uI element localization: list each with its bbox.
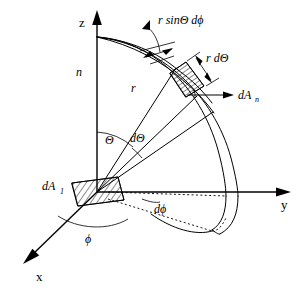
dphi-wedge	[108, 192, 226, 231]
source-patch	[72, 177, 124, 206]
radius-label: r	[131, 81, 136, 95]
source-area-subscript: 1	[60, 187, 64, 196]
r-dtheta-label: r dΘ	[206, 51, 229, 65]
diagram-canvas: z y x n	[0, 0, 306, 288]
axis-y	[97, 187, 291, 196]
axis-label-y: y	[281, 197, 288, 212]
phi-arc	[58, 216, 128, 227]
spherical-coordinates-diagram: z y x n	[0, 0, 306, 288]
axis-label-z: z	[79, 15, 85, 30]
normal-area-subscript: n	[255, 95, 259, 104]
hemisphere-meridians	[97, 37, 238, 234]
normal-area-label: dA	[238, 88, 252, 102]
arc-width-label: r sinΘ dϕ	[158, 13, 204, 27]
dtheta-label: dΘ	[130, 131, 145, 145]
source-area-label: dA	[42, 179, 56, 193]
phi-label: ϕ	[85, 232, 91, 246]
theta-label: Θ	[105, 133, 114, 147]
dphi-label: dϕ	[154, 202, 166, 216]
axis-label-x: x	[36, 269, 43, 284]
normal-label: n	[76, 65, 82, 79]
